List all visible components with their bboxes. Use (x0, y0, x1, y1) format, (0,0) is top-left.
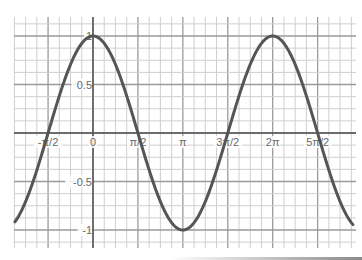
y-tick-label: -1 (82, 224, 92, 236)
y-tick-label: 0.5 (77, 79, 92, 91)
y-tick-label: -0.5 (73, 176, 92, 188)
x-tick-label: 0 (90, 136, 96, 148)
cosine-chart: -π/20π/2π3π/22π5π/210.5-0.5-1 (0, 0, 362, 260)
axes (14, 17, 356, 248)
x-tick-label: π (179, 136, 187, 148)
x-tick-label: 2π (266, 136, 280, 148)
